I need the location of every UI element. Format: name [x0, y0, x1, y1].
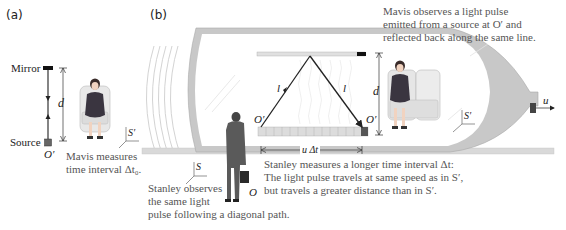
path-label-left: l — [277, 82, 280, 94]
path-label-right: l — [343, 82, 346, 94]
mirror-strip-top — [257, 52, 366, 56]
mirror-icon — [43, 66, 53, 70]
panel-a-label: (a) — [6, 8, 23, 22]
frame-label-s: S — [196, 161, 201, 172]
distance-label-a: d — [58, 96, 64, 111]
arrow-up-icon — [46, 114, 51, 119]
distance-label-b: d — [373, 84, 379, 99]
origin-label-right: O′ — [366, 113, 376, 125]
light-source-icon — [361, 127, 368, 136]
mavis-seated-figure — [80, 79, 110, 140]
mirror-label: Mirror — [11, 62, 40, 74]
light-source-icon — [45, 139, 52, 146]
headlight-icon — [530, 103, 536, 113]
mavis-seated-figure-train — [388, 61, 440, 130]
source-label: Source — [10, 136, 41, 148]
velocity-label: u — [543, 94, 549, 106]
frame-label-s-prime-a: S′ — [128, 127, 135, 138]
origin-label-left: O′ — [254, 113, 264, 125]
arrow-down-icon — [46, 96, 51, 101]
displacement-label: u Δt — [300, 144, 320, 155]
mirror-icon — [357, 52, 366, 56]
panel-b-label: (b) — [150, 8, 167, 22]
origin-label-a: O′ — [44, 148, 54, 160]
motion-lines — [146, 46, 180, 154]
stanley-measure-caption: Stanley measures a longer time interval … — [264, 158, 463, 197]
frame-label-s-prime-b: S′ — [464, 110, 471, 121]
mavis-caption-a: Mavis measures time interval Δt₀. — [66, 150, 141, 176]
mavis-caption-b: Mavis observes a light pulse emitted fro… — [383, 5, 536, 44]
source-strip-bottom — [258, 127, 368, 136]
